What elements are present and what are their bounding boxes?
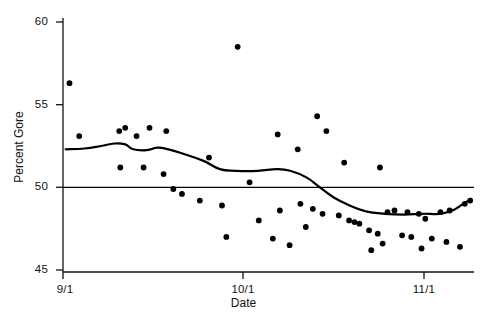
data-point <box>341 160 347 166</box>
x-tick-label-11-1: 11/1 <box>399 283 449 295</box>
data-point <box>117 165 123 171</box>
data-point <box>116 128 122 134</box>
data-point <box>161 171 167 177</box>
data-point <box>147 125 153 131</box>
data-point <box>287 242 293 248</box>
data-point <box>346 218 352 224</box>
data-point <box>375 231 381 237</box>
data-point <box>219 203 225 209</box>
data-point <box>163 128 169 134</box>
data-point <box>122 125 128 131</box>
data-point <box>457 244 463 250</box>
data-point <box>408 234 414 240</box>
data-point <box>310 206 316 212</box>
data-point <box>422 216 428 222</box>
data-point <box>206 155 212 161</box>
data-point <box>223 234 229 240</box>
y-tick-label-45: 45 <box>22 263 48 275</box>
data-point <box>270 236 276 242</box>
y-tick-label-60: 60 <box>22 15 48 27</box>
data-point <box>303 224 309 230</box>
data-point <box>368 247 374 253</box>
data-point <box>197 198 203 204</box>
data-point <box>419 246 425 252</box>
data-point <box>377 165 383 171</box>
data-point <box>67 80 73 86</box>
data-point <box>298 201 304 207</box>
poll-trend-chart: 60 55 50 45 9/1 10/1 11/1 Date Percent G… <box>0 0 487 322</box>
x-axis-title: Date <box>0 296 487 310</box>
y-axis-ticks <box>56 22 63 270</box>
data-point <box>320 211 326 217</box>
data-point <box>235 44 241 50</box>
data-point <box>444 239 450 245</box>
data-point <box>134 133 140 139</box>
data-point <box>295 146 301 152</box>
data-point <box>399 232 405 238</box>
plot-area <box>0 0 487 322</box>
data-point <box>323 128 329 134</box>
data-point <box>76 133 82 139</box>
trend-line <box>66 143 472 214</box>
data-point <box>314 113 320 119</box>
data-point <box>336 213 342 219</box>
data-point <box>392 208 398 214</box>
data-point <box>380 241 386 247</box>
data-point <box>141 165 147 171</box>
y-axis-title: Percent Gore <box>12 92 26 202</box>
scatter-points <box>67 44 474 253</box>
data-point <box>429 236 435 242</box>
data-point <box>256 218 262 224</box>
data-point <box>366 227 372 233</box>
data-point <box>247 179 253 185</box>
x-tick-label-10-1: 10/1 <box>218 283 268 295</box>
data-point <box>179 191 185 197</box>
data-point <box>275 132 281 138</box>
data-point <box>277 208 283 214</box>
x-axis-ticks <box>63 272 424 279</box>
x-tick-label-9-1: 9/1 <box>40 283 90 295</box>
data-series-layer <box>63 44 474 253</box>
data-point <box>356 221 362 227</box>
